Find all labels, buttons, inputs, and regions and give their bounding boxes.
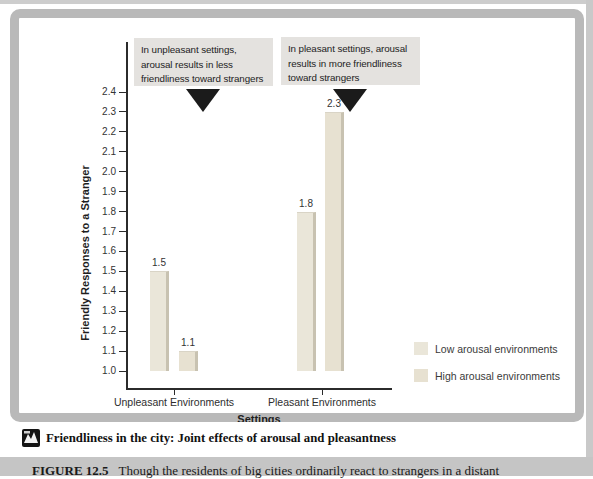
y-tick-mark <box>119 311 126 312</box>
bar-value-label: 1.5 <box>142 257 176 268</box>
annotation-pleasant: In pleasant settings, arousal results in… <box>281 37 420 85</box>
legend-swatch-high <box>414 369 428 382</box>
bar-low-arousal-1 <box>297 212 316 371</box>
y-tick-mark <box>119 331 126 332</box>
y-tick-label: 2.1 <box>86 146 116 157</box>
y-tick-mark <box>119 271 126 272</box>
y-tick-mark <box>119 171 126 172</box>
y-tick-mark <box>119 131 126 132</box>
legend-label-low: Low arousal environments <box>435 343 558 355</box>
x-tick-mark <box>322 389 323 395</box>
annotation-unpleasant: In unpleasant settings, arousal results … <box>134 38 273 86</box>
x-tick-mark <box>174 389 175 395</box>
bar-value-label: 2.3 <box>317 98 351 109</box>
y-tick-label: 1.8 <box>86 206 116 217</box>
bar-value-label: 1.8 <box>289 198 323 209</box>
y-tick-label: 1.4 <box>86 285 116 296</box>
y-tick-label: 1.9 <box>86 186 116 197</box>
caption-bar: Friendliness in the city: Joint effects … <box>8 422 585 457</box>
y-tick-mark <box>119 231 126 232</box>
figure-note-text: Though the residents of big cities ordin… <box>119 463 500 478</box>
y-tick-label: 1.5 <box>86 265 116 276</box>
y-tick-label: 1.7 <box>86 226 116 237</box>
x-axis <box>126 388 392 390</box>
y-tick-label: 1.1 <box>86 345 116 356</box>
caption-title: Friendliness in the city: Joint effects … <box>46 431 576 446</box>
y-tick-mark <box>119 211 126 212</box>
legend-swatch-low <box>414 342 428 355</box>
x-category-label: Pleasant Environments <box>237 396 407 408</box>
page-top-edge <box>0 0 593 4</box>
figure-panel: In unpleasant settings, arousal results … <box>10 9 584 422</box>
figure-note-strip: FIGURE 12.5Though the residents of big c… <box>0 457 593 476</box>
y-tick-mark <box>119 371 126 372</box>
y-tick-mark <box>119 111 126 112</box>
page-right-edge <box>586 0 593 476</box>
figure-icon <box>22 429 40 447</box>
figure-note: FIGURE 12.5Though the residents of big c… <box>32 463 592 479</box>
y-axis <box>126 42 128 389</box>
y-tick-mark <box>119 92 126 93</box>
y-tick-label: 1.0 <box>86 365 116 376</box>
y-tick-mark <box>119 251 126 252</box>
y-tick-mark <box>119 351 126 352</box>
y-tick-mark <box>119 191 126 192</box>
y-tick-label: 2.3 <box>86 106 116 117</box>
figure-number: FIGURE 12.5 <box>32 463 109 478</box>
y-tick-mark <box>119 291 126 292</box>
bar-low-arousal-0 <box>150 271 169 371</box>
y-tick-label: 2.2 <box>86 126 116 137</box>
down-triangle-icon <box>186 89 220 112</box>
x-category-label: Unpleasant Environments <box>89 396 259 408</box>
y-tick-mark <box>119 151 126 152</box>
legend-label-high: High arousal environments <box>435 370 560 382</box>
y-tick-label: 2.4 <box>86 86 116 97</box>
y-tick-label: 1.3 <box>86 305 116 316</box>
bar-high-arousal-1 <box>325 112 344 371</box>
bar-high-arousal-0 <box>179 351 198 371</box>
y-tick-label: 2.0 <box>86 166 116 177</box>
y-tick-label: 1.2 <box>86 325 116 336</box>
y-tick-label: 1.6 <box>86 245 116 256</box>
bar-value-label: 1.1 <box>171 337 205 348</box>
